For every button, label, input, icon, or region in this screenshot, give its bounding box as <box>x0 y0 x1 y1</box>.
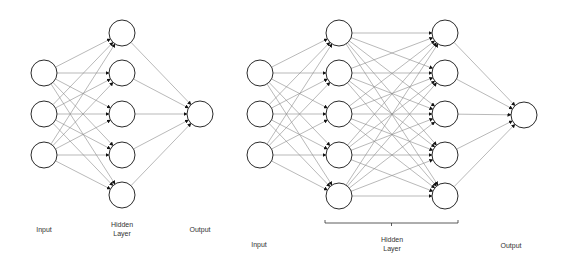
edge-line <box>56 39 111 67</box>
input-node <box>31 101 57 127</box>
edge-line <box>53 42 113 104</box>
hidden-node <box>432 20 458 46</box>
shallow-hidden-label-line2: Layer <box>113 229 131 238</box>
deep-input-label: Input <box>251 240 267 249</box>
input-node <box>247 60 273 86</box>
edge-line <box>458 114 511 115</box>
hidden-node <box>326 20 352 46</box>
edge-line <box>51 84 115 184</box>
hidden-node <box>109 60 135 86</box>
input-node <box>247 101 273 127</box>
shallow-output-label: Output <box>189 225 210 234</box>
hidden-node <box>432 101 458 127</box>
hidden-node <box>109 101 135 127</box>
hidden-node <box>326 101 352 127</box>
bracket-icon <box>325 220 458 226</box>
neural-network-diagram <box>0 0 564 266</box>
edge-line <box>267 44 332 144</box>
edge-line <box>131 123 191 185</box>
hidden-node <box>432 60 458 86</box>
hidden-node <box>432 142 458 168</box>
hidden-node <box>109 20 135 46</box>
deep-output-label: Output <box>500 241 521 250</box>
hidden-node <box>326 142 352 168</box>
edge-line <box>272 39 328 67</box>
hidden-node <box>432 183 458 209</box>
shallow-hidden-label-line1: Hidden <box>111 220 133 229</box>
hidden-node <box>326 183 352 209</box>
output-node <box>511 102 537 128</box>
deep-hidden-label-line2: Layer <box>383 244 401 253</box>
input-node <box>31 142 57 168</box>
edge-line <box>454 42 515 105</box>
edge-line <box>454 124 515 186</box>
hidden-node <box>326 60 352 86</box>
hidden-node <box>109 142 135 168</box>
edge-line <box>56 161 111 189</box>
edge-line <box>131 42 191 104</box>
deep-hidden-label-line1: Hidden <box>381 235 403 244</box>
input-node <box>31 60 57 86</box>
edge-line <box>53 123 113 185</box>
edge-line <box>457 121 513 149</box>
hidden-layer-bracket <box>325 220 458 226</box>
shallow-input-label: Input <box>36 225 52 234</box>
hidden-node <box>109 182 135 208</box>
input-node <box>247 142 273 168</box>
edge-line <box>51 44 115 144</box>
output-node <box>187 101 213 127</box>
edge-line <box>269 42 330 104</box>
